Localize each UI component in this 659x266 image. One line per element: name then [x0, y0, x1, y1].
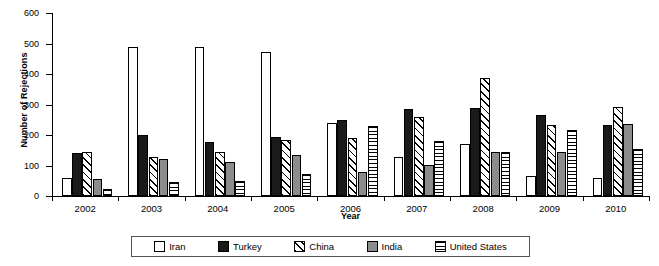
- bar-turkey-2007: [404, 109, 414, 196]
- bar-iran-2010: [593, 178, 603, 196]
- legend-swatch-iran: [154, 241, 165, 252]
- legend-swatch-united-states: [435, 241, 446, 252]
- bar-india-2006: [358, 172, 368, 196]
- bar-india-2010: [623, 124, 633, 196]
- bar-united-states-2004: [235, 181, 245, 196]
- bar-united-states-2008: [501, 152, 511, 196]
- y-axis-tick: [46, 74, 52, 75]
- bar-group: [327, 13, 377, 196]
- bar-iran-2003: [128, 47, 138, 196]
- x-axis-tick: [185, 196, 186, 201]
- bar-china-2003: [149, 157, 159, 196]
- bar-group: [128, 13, 178, 196]
- y-axis-tick-label: 300: [0, 101, 39, 110]
- y-axis-tick-label: 600: [0, 9, 39, 18]
- y-axis-tick-label: 100: [0, 162, 39, 171]
- bar-china-2007: [414, 117, 424, 196]
- x-axis-line: [52, 196, 649, 197]
- y-axis-tick: [46, 13, 52, 14]
- x-axis-tick: [251, 196, 252, 201]
- bar-iran-2005: [261, 52, 271, 196]
- bar-united-states-2007: [434, 141, 444, 196]
- legend-item-india: India: [367, 241, 403, 252]
- bar-group: [261, 13, 311, 196]
- bar-iran-2002: [62, 178, 72, 196]
- bar-group: [460, 13, 510, 196]
- plot-area: 0100200300400500600 20022003200420052006…: [52, 13, 649, 196]
- legend-label-turkey: Turkey: [233, 241, 262, 252]
- bar-group: [593, 13, 643, 196]
- bar-united-states-2005: [302, 174, 312, 196]
- legend-swatch-india: [367, 241, 378, 252]
- x-axis-tick: [118, 196, 119, 201]
- legend-label-india: India: [382, 241, 403, 252]
- y-axis-tick-label: 200: [0, 131, 39, 140]
- bar-united-states-2009: [567, 130, 577, 196]
- y-axis-tick: [46, 166, 52, 167]
- x-axis-tick: [384, 196, 385, 201]
- bar-china-2008: [480, 78, 490, 196]
- legend-label-iran: Iran: [169, 241, 185, 252]
- legend-label-china: China: [309, 241, 334, 252]
- bar-china-2005: [281, 140, 291, 196]
- y-axis-tick-label: 500: [0, 40, 39, 49]
- bar-iran-2007: [394, 157, 404, 196]
- x-axis-tick: [583, 196, 584, 201]
- bar-chart: Number of Rejections 0100200300400500600…: [0, 0, 659, 266]
- bar-united-states-2006: [368, 126, 378, 196]
- legend-item-iran: Iran: [154, 241, 185, 252]
- bar-china-2002: [82, 152, 92, 196]
- y-axis-line: [52, 13, 53, 196]
- legend-item-united-states: United States: [435, 241, 507, 252]
- bar-china-2006: [348, 138, 358, 196]
- y-axis-tick-label: 0: [0, 192, 39, 201]
- bar-turkey-2002: [72, 153, 82, 196]
- bar-india-2003: [159, 159, 169, 196]
- bar-india-2007: [424, 165, 434, 196]
- y-axis-tick: [46, 105, 52, 106]
- legend-swatch-china: [294, 241, 305, 252]
- bar-iran-2004: [195, 47, 205, 196]
- bar-china-2010: [613, 107, 623, 196]
- legend-item-china: China: [294, 241, 334, 252]
- bar-india-2009: [557, 152, 567, 196]
- x-axis-tick: [317, 196, 318, 201]
- bar-turkey-2004: [205, 142, 215, 196]
- x-axis-tick: [649, 196, 650, 201]
- bar-iran-2006: [327, 123, 337, 196]
- bar-india-2002: [93, 179, 103, 196]
- bar-turkey-2010: [603, 125, 613, 196]
- bar-group: [62, 13, 112, 196]
- bar-india-2008: [491, 152, 501, 196]
- y-axis-tick-label: 400: [0, 70, 39, 79]
- bar-united-states-2002: [103, 189, 113, 196]
- bar-group: [394, 13, 444, 196]
- y-axis-tick: [46, 135, 52, 136]
- bar-india-2005: [292, 155, 302, 196]
- legend-swatch-turkey: [218, 241, 229, 252]
- x-axis-tick: [450, 196, 451, 201]
- bar-china-2009: [547, 125, 557, 196]
- y-axis-tick: [46, 44, 52, 45]
- bar-india-2004: [225, 162, 235, 196]
- bar-group: [195, 13, 245, 196]
- chart-legend: Iran Turkey China India United States: [131, 236, 530, 257]
- bar-united-states-2003: [169, 182, 179, 196]
- x-axis-title: Year: [52, 211, 649, 221]
- bar-iran-2008: [460, 144, 470, 196]
- bar-group: [526, 13, 576, 196]
- bar-turkey-2005: [271, 137, 281, 196]
- x-axis-tick: [52, 196, 53, 201]
- bar-united-states-2010: [633, 149, 643, 196]
- bar-turkey-2008: [470, 108, 480, 196]
- bar-china-2004: [215, 152, 225, 196]
- bar-iran-2009: [526, 176, 536, 196]
- legend-label-united-states: United States: [450, 241, 507, 252]
- x-axis-tick: [516, 196, 517, 201]
- bar-turkey-2006: [337, 120, 347, 196]
- bar-turkey-2003: [138, 135, 148, 196]
- legend-item-turkey: Turkey: [218, 241, 262, 252]
- bar-turkey-2009: [536, 115, 546, 196]
